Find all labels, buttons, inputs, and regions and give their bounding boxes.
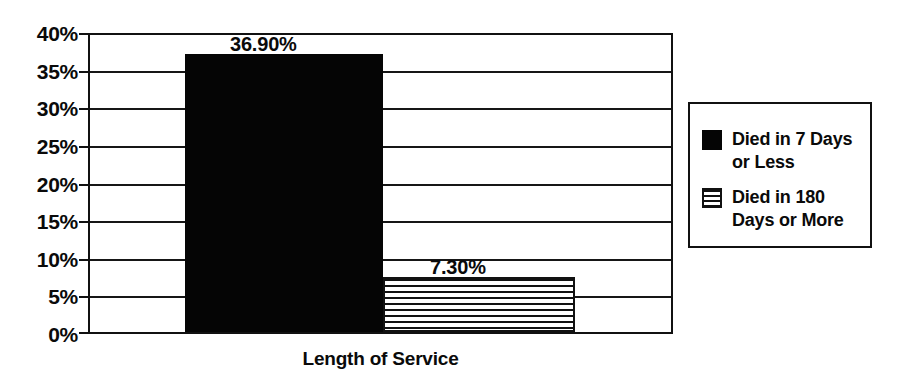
legend-item-died-in-180-days-or-more[interactable]: Died in 180 Days or More: [702, 186, 870, 231]
y-axis-tick-mark: [79, 184, 88, 186]
legend-label: Died in 7 Days or Less: [732, 128, 870, 173]
bar-died-in-7-days-or-less[interactable]: [185, 54, 383, 332]
y-axis-tick-mark: [79, 71, 88, 73]
legend: Died in 7 Days or Less Died in 180 Days …: [688, 102, 872, 248]
y-axis-tick-labels: 40% 35% 30% 25% 20% 15% 10% 5% 0%: [10, 0, 78, 384]
y-axis-tick-mark: [79, 296, 88, 298]
y-axis-tick-mark: [79, 259, 88, 261]
bar-died-in-180-days-or-more[interactable]: [383, 277, 575, 332]
bar-chart: 40% 35% 30% 25% 20% 15% 10% 5% 0% 36: [0, 0, 902, 384]
y-axis-tick-label: 25%: [10, 135, 78, 156]
y-axis-tick-label: 40%: [10, 23, 78, 44]
y-axis-tick-mark: [79, 33, 88, 35]
y-axis-tick-label: 15%: [10, 211, 78, 232]
legend-swatch-solid-icon: [702, 130, 722, 150]
y-axis-tick-label: 0%: [10, 324, 78, 345]
legend-item-died-in-7-days-or-less[interactable]: Died in 7 Days or Less: [702, 128, 870, 173]
y-axis-tick-label: 20%: [10, 173, 78, 194]
plot-area: 36.90% 7.30%: [88, 33, 673, 334]
legend-swatch-striped-icon: [702, 188, 722, 208]
y-axis-tick-mark: [79, 108, 88, 110]
y-axis-tick-label: 35%: [10, 60, 78, 81]
data-label-bar-1: 36.90%: [230, 34, 297, 54]
x-axis-label: Length of Service: [88, 348, 673, 370]
y-axis-tick-mark: [79, 332, 88, 334]
data-label-bar-2: 7.30%: [430, 257, 486, 277]
y-axis-tick-mark: [79, 146, 88, 148]
y-axis-tick-mark: [79, 221, 88, 223]
y-axis-tick-label: 10%: [10, 248, 78, 269]
y-axis-tick-label: 30%: [10, 98, 78, 119]
legend-label: Died in 180 Days or More: [732, 186, 870, 231]
y-axis-tick-label: 5%: [10, 286, 78, 307]
